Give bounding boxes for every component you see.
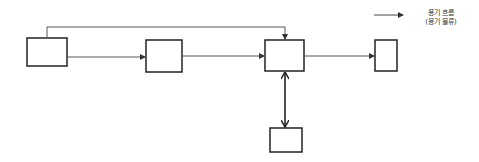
node-box-d (375, 40, 397, 71)
arrow-a-to-c-loop (47, 27, 285, 39)
node-box-c (265, 40, 304, 71)
node-box-a (27, 38, 67, 66)
node-box-b (146, 40, 182, 72)
legend-label: 용기 흐름 (용기 물류) (420, 9, 462, 27)
legend-line-2: (용기 물류) (420, 18, 462, 27)
node-box-e (270, 128, 302, 152)
flow-diagram (0, 0, 479, 162)
legend-line-1: 용기 흐름 (420, 9, 462, 18)
